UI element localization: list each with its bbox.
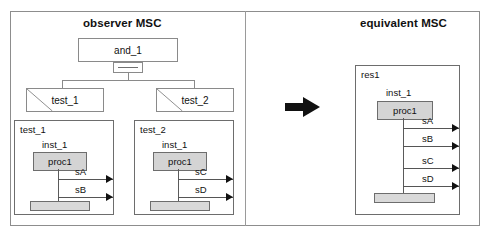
message-label-sd: sD xyxy=(195,184,207,195)
message-line-sa xyxy=(403,128,459,129)
message-label-sc: sC xyxy=(422,155,434,166)
msc-reference-test-1[interactable]: test_1 xyxy=(26,88,104,112)
instance-name-label: inst_1 xyxy=(42,139,67,150)
instance-name-label: inst_1 xyxy=(162,139,187,150)
msc-name-label: res1 xyxy=(361,69,379,80)
msc-diagram-test-2[interactable]: test_2 inst_1 proc1 sC sD xyxy=(134,120,234,215)
connector-drop-left xyxy=(62,80,63,88)
msc-name-label: test_2 xyxy=(140,124,166,135)
message-line-sb xyxy=(403,146,459,147)
instance-end-bar xyxy=(374,193,435,203)
message-label-sd: sD xyxy=(422,173,434,184)
message-label-sa: sA xyxy=(75,166,86,177)
msc-name-label: test_1 xyxy=(20,124,46,135)
message-arrowhead-sc xyxy=(452,164,459,172)
message-label-sc: sC xyxy=(195,166,207,177)
message-line-sd xyxy=(178,197,233,198)
message-line-sd xyxy=(403,186,459,187)
transform-arrow-head-icon xyxy=(303,97,320,117)
panel-title-equivalent: equivalent MSC xyxy=(360,17,447,29)
figure-canvas: observer MSC equivalent MSC and_1 test_1… xyxy=(0,0,488,235)
node-and-1[interactable]: and_1 xyxy=(78,38,178,62)
message-arrowhead-sb xyxy=(452,142,459,150)
lifeline xyxy=(58,169,59,205)
message-label-sb: sB xyxy=(75,184,86,195)
lifeline xyxy=(178,169,179,205)
message-line-sa xyxy=(58,179,113,180)
msc-reference-label: test_1 xyxy=(27,89,103,111)
message-line-sb xyxy=(58,197,113,198)
instance-name-label: inst_1 xyxy=(386,87,411,98)
message-line-sc xyxy=(178,179,233,180)
and-bar-icon xyxy=(118,67,138,68)
connector-drop-right xyxy=(194,80,195,88)
msc-diagram-test-1[interactable]: test_1 inst_1 proc1 sA sB xyxy=(14,120,114,215)
message-label-sb: sB xyxy=(422,133,433,144)
instance-end-bar xyxy=(150,201,210,211)
instance-end-bar xyxy=(30,201,90,211)
message-arrowhead-sa xyxy=(452,124,459,132)
connector-stub-to-bus xyxy=(128,73,129,80)
message-arrowhead-sa xyxy=(106,175,113,183)
msc-diagram-res1[interactable]: res1 inst_1 proc1 sA sB sC sD xyxy=(355,65,460,215)
connector-bus xyxy=(62,80,195,81)
message-arrowhead-sc xyxy=(226,175,233,183)
message-arrowhead-sd xyxy=(226,193,233,201)
message-arrowhead-sd xyxy=(452,182,459,190)
message-arrowhead-sb xyxy=(106,193,113,201)
msc-reference-label: test_2 xyxy=(157,89,233,111)
msc-reference-test-2[interactable]: test_2 xyxy=(156,88,234,112)
panel-title-observer: observer MSC xyxy=(83,17,162,29)
message-label-sa: sA xyxy=(422,115,433,126)
panel-divider xyxy=(245,11,246,226)
message-line-sc xyxy=(403,168,459,169)
